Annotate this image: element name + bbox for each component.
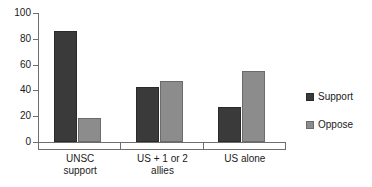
- bar-oppose[interactable]: [242, 71, 265, 142]
- oppose-swatch-icon: [306, 121, 314, 129]
- y-axis-tick-label: 60: [1, 60, 31, 70]
- legend-label-oppose: Oppose: [318, 120, 353, 130]
- y-axis-tick-label: 40: [1, 85, 31, 95]
- y-axis-tick-label: 80: [1, 34, 31, 44]
- legend-label-support: Support: [318, 92, 353, 102]
- bar-oppose[interactable]: [160, 81, 183, 142]
- bar-group: [204, 13, 286, 142]
- y-axis-tick-mark: [33, 65, 38, 66]
- x-axis-separator: [203, 143, 204, 150]
- bar-chart: 020406080100 UNSCsupportUS + 1 or 2allie…: [0, 0, 372, 187]
- x-axis-category-label: US + 1 or 2allies: [121, 153, 203, 177]
- plot-area: [39, 13, 286, 142]
- x-axis-separator: [38, 143, 39, 150]
- support-swatch-icon: [306, 93, 314, 101]
- bar-oppose[interactable]: [78, 118, 101, 143]
- bar-group: [39, 13, 121, 142]
- category-label-line: support: [39, 165, 121, 177]
- x-axis-category-label: UNSCsupport: [39, 153, 121, 177]
- legend-item-support[interactable]: Support: [306, 92, 372, 102]
- category-label-line: US + 1 or 2: [121, 153, 203, 165]
- bar-support[interactable]: [218, 107, 241, 142]
- y-axis-tick-label: 20: [1, 111, 31, 121]
- category-label-line: allies: [121, 165, 203, 177]
- chart-legend: Support Oppose: [306, 92, 372, 148]
- category-label-line: UNSC: [39, 153, 121, 165]
- y-axis-tick-mark: [33, 116, 38, 117]
- legend-item-oppose[interactable]: Oppose: [306, 120, 372, 130]
- bar-group: [121, 13, 203, 142]
- y-axis-tick-mark: [33, 13, 38, 14]
- category-label-line: US alone: [204, 153, 286, 165]
- y-axis-tick-mark: [33, 39, 38, 40]
- x-axis-separator: [285, 143, 286, 150]
- y-axis-tick-label: 100: [1, 8, 31, 18]
- y-axis-tick-mark: [33, 90, 38, 91]
- x-axis-category-rule: [38, 149, 286, 150]
- x-axis-category-label: US alone: [204, 153, 286, 165]
- bar-support[interactable]: [54, 31, 77, 142]
- bar-support[interactable]: [136, 87, 159, 142]
- x-axis-line: [38, 142, 286, 143]
- x-axis-separator: [120, 143, 121, 150]
- y-axis-tick-label: 0: [1, 137, 31, 147]
